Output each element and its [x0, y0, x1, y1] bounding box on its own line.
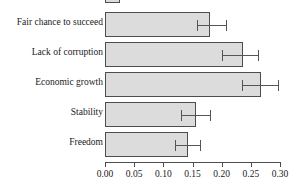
- x-axis-tick-2: [163, 162, 164, 167]
- bar-row-freedom: [105, 132, 280, 157]
- error-bar-cap-low-stability: [181, 110, 182, 121]
- error-bar-cap-high-stability: [210, 110, 211, 121]
- bar-fair-chance-to-succeed[interactable]: [105, 12, 210, 37]
- error-bar-cap-low-economic-growth: [242, 80, 243, 91]
- bar-row-fair-chance-to-succeed: [105, 12, 280, 37]
- bar-row-economic-growth: [105, 72, 280, 97]
- error-bar-cap-high-lack-of-corruption: [258, 50, 259, 61]
- x-axis-tick-1: [134, 162, 135, 167]
- bar-economic-growth[interactable]: [105, 72, 261, 97]
- error-bar-cap-high-freedom: [200, 140, 201, 151]
- error-bar-cap-low-fair-chance-to-succeed: [197, 20, 198, 31]
- x-axis-tick-6: [280, 162, 281, 167]
- error-bar-line-fair-chance-to-succeed: [197, 25, 226, 26]
- error-bar-cap-low-freedom: [175, 140, 176, 151]
- bar-row-stability: [105, 102, 280, 127]
- category-label-economic-growth: Economic growth: [0, 78, 103, 88]
- x-axis-tick-5: [251, 162, 252, 167]
- clipped-partial-bar: [105, 0, 120, 3]
- error-bar-line-freedom: [175, 145, 200, 146]
- error-bar-line-economic-growth: [242, 85, 278, 86]
- error-bar-line-stability: [181, 115, 210, 116]
- bar-row-lack-of-corruption: [105, 42, 280, 67]
- category-label-freedom: Freedom: [0, 138, 103, 148]
- plot-area: [105, 0, 280, 162]
- error-bar-line-lack-of-corruption: [222, 55, 258, 56]
- error-bar-cap-low-lack-of-corruption: [222, 50, 223, 61]
- category-label-stability: Stability: [0, 108, 103, 118]
- x-axis-tick-label-6: 0.30: [260, 170, 290, 180]
- category-label-lack-of-corruption: Lack of corruption: [0, 48, 103, 58]
- horizontal-bar-chart: Fair chance to succeed Lack of corruptio…: [0, 0, 290, 191]
- x-axis-tick-0: [105, 162, 106, 167]
- x-axis-tick-3: [193, 162, 194, 167]
- category-label-fair-chance-to-succeed: Fair chance to succeed: [0, 18, 103, 28]
- x-axis-tick-4: [222, 162, 223, 167]
- error-bar-cap-high-fair-chance-to-succeed: [226, 20, 227, 31]
- error-bar-cap-high-economic-growth: [278, 80, 279, 91]
